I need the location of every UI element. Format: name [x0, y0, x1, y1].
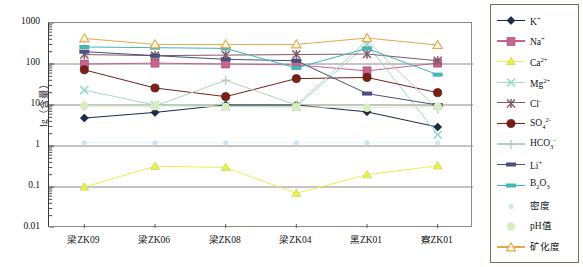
series-line — [84, 105, 437, 127]
x-axis-tick-label: 梁ZK09 — [67, 232, 99, 246]
data-point-marker — [507, 223, 515, 231]
data-point-marker — [435, 140, 440, 145]
y-axis-tick-label: 1 — [0, 140, 44, 149]
legend-swatch-SO42--icon — [497, 117, 525, 129]
data-point-marker — [434, 89, 442, 97]
legend-item-SO42-[interactable]: SO42- — [491, 113, 578, 134]
data-point-marker — [222, 93, 230, 101]
data-point-marker — [292, 103, 300, 111]
data-point-marker — [292, 75, 300, 83]
data-point-marker — [82, 140, 87, 145]
data-point-marker — [362, 92, 372, 96]
data-point-marker — [434, 123, 442, 131]
legend-label-HCO3-: HCO3- — [530, 135, 555, 152]
series-line — [84, 47, 437, 75]
y-axis-tick-label: 0.01 — [0, 222, 44, 231]
data-point-marker — [363, 103, 371, 111]
legend-swatch-密度-icon — [497, 200, 525, 212]
legend-item-Mg2+[interactable]: Mg2+ — [491, 72, 578, 93]
legend-swatch-矿化度-icon — [497, 241, 525, 253]
legend-label-Na+: Na+ — [530, 34, 545, 47]
legend-item-Na+[interactable]: Na+ — [491, 31, 578, 52]
x-axis-tick-label: 梁ZK08 — [209, 232, 241, 246]
series-line — [84, 106, 437, 108]
chart-page: lg（含量） 10001001010.10.01 梁ZK09梁ZK06梁ZK08… — [0, 0, 583, 267]
legend-label-pH值: pH值 — [530, 221, 552, 231]
legend-item-B2O3[interactable]: B2O3 — [491, 175, 578, 196]
legend-swatch-pH值-icon — [497, 220, 525, 232]
data-point-marker — [80, 86, 88, 94]
data-point-marker — [506, 243, 515, 251]
data-point-marker — [79, 50, 89, 54]
legend-swatch-Ca2+-icon — [497, 55, 525, 67]
legend-item-Ca2+[interactable]: Ca2+ — [491, 51, 578, 72]
legend-swatch-Cl--icon — [497, 97, 525, 109]
x-axis-tick-label: 梁ZK04 — [279, 232, 311, 246]
y-axis-tick-label: 10 — [0, 99, 44, 108]
legend-item-密度[interactable]: 密度 — [491, 195, 578, 216]
data-point-marker — [362, 33, 371, 41]
legend-label-SO42-: SO42- — [530, 115, 551, 132]
data-point-marker — [80, 102, 88, 110]
y-axis-tick-label: 0.1 — [0, 181, 44, 190]
legend-swatch-B2O3-icon — [497, 179, 525, 191]
data-point-marker — [291, 66, 301, 70]
legend-swatch-Li+-icon — [497, 158, 525, 170]
data-point-marker — [79, 45, 89, 49]
chart-canvas — [49, 23, 473, 228]
data-point-marker — [506, 184, 516, 188]
data-point-marker — [506, 163, 516, 167]
data-point-marker — [507, 37, 515, 45]
legend-item-Li+[interactable]: Li+ — [491, 154, 578, 175]
chart-legend: K+Na+Ca2+Mg2+Cl-SO42-HCO3-Li+B2O3密度pH值矿化… — [490, 4, 579, 263]
data-point-marker — [221, 103, 229, 111]
legend-label-矿化度: 矿化度 — [530, 242, 560, 252]
data-point-marker — [151, 102, 159, 110]
legend-label-Li+: Li+ — [530, 158, 542, 171]
data-point-marker — [363, 73, 371, 81]
legend-label-Cl-: Cl- — [530, 96, 541, 109]
plot-area — [48, 22, 472, 227]
series-Ca2+ — [80, 161, 442, 196]
data-point-marker — [433, 161, 442, 169]
legend-swatch-K+-icon — [497, 14, 525, 26]
data-point-marker — [507, 79, 515, 87]
legend-swatch-Mg2+-icon — [497, 76, 525, 88]
data-point-marker — [152, 140, 157, 145]
data-point-marker — [508, 204, 513, 209]
series-line — [84, 41, 437, 109]
legend-label-Ca2+: Ca2+ — [530, 55, 547, 68]
data-point-marker — [80, 66, 88, 74]
data-point-marker — [364, 140, 369, 145]
data-point-marker — [221, 57, 231, 61]
data-point-marker — [151, 84, 159, 92]
legend-label-B2O3: B2O3 — [530, 178, 550, 192]
data-point-marker — [362, 46, 372, 50]
data-point-marker — [291, 59, 301, 63]
legend-item-pH值[interactable]: pH值 — [491, 216, 578, 237]
legend-item-矿化度[interactable]: 矿化度 — [491, 237, 578, 258]
series-line — [84, 38, 437, 45]
data-point-marker — [433, 73, 443, 77]
series-密度 — [82, 140, 441, 145]
y-axis-tick-label: 100 — [0, 58, 44, 67]
series-pH值 — [80, 102, 442, 112]
legend-swatch-Na+-icon — [497, 35, 525, 47]
data-point-marker — [507, 17, 515, 25]
data-point-marker — [151, 162, 160, 170]
data-point-marker — [221, 40, 230, 48]
data-point-marker — [221, 76, 230, 85]
data-point-marker — [507, 99, 515, 108]
series-line — [84, 52, 437, 105]
legend-label-Mg2+: Mg2+ — [530, 76, 550, 89]
data-point-marker — [433, 102, 441, 110]
data-point-marker — [150, 54, 160, 58]
legend-item-HCO3-[interactable]: HCO3- — [491, 134, 578, 155]
data-point-marker — [507, 58, 516, 66]
series-矿化度 — [80, 33, 443, 48]
series-line — [84, 166, 437, 194]
data-point-marker — [223, 140, 228, 145]
legend-item-Cl-[interactable]: Cl- — [491, 92, 578, 113]
legend-item-K+[interactable]: K+ — [491, 10, 578, 31]
data-point-marker — [221, 163, 230, 171]
